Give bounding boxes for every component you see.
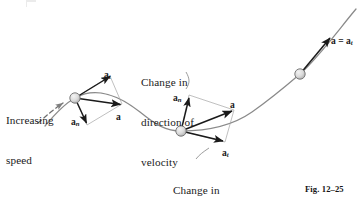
annotation-line: direction of bbox=[141, 116, 194, 129]
annotation-change-in-magnitude: Change in magnitude of velocity bbox=[173, 158, 234, 205]
label-a-left: a bbox=[116, 112, 121, 124]
annotation-line: Change in bbox=[141, 76, 194, 89]
figure-caption: Fig. 12–25 bbox=[305, 184, 344, 194]
label-symbol: a bbox=[116, 112, 121, 122]
label-an-left: an bbox=[71, 117, 80, 129]
label-subscript: t bbox=[109, 73, 111, 80]
label-symbol: a = a bbox=[331, 36, 351, 46]
label-subscript: n bbox=[178, 96, 182, 103]
label-subscript: t bbox=[227, 151, 229, 158]
label-an-middle: an bbox=[173, 93, 182, 105]
annotation-line: Increasing bbox=[6, 114, 54, 127]
vector-a-equals-at bbox=[300, 38, 330, 74]
trajectory-path bbox=[45, 9, 356, 131]
label-at-left: at bbox=[104, 70, 111, 82]
annotation-line: Change in bbox=[173, 184, 234, 197]
vector-group-left bbox=[75, 76, 122, 125]
particle-left bbox=[70, 93, 80, 103]
label-subscript: n bbox=[76, 120, 80, 127]
annotation-increasing-speed: Increasing speed bbox=[6, 88, 54, 194]
label-a-equals-at: a = at bbox=[331, 36, 353, 48]
label-symbol: a bbox=[230, 100, 235, 110]
label-subscript: t bbox=[351, 39, 353, 46]
particle-right bbox=[295, 69, 305, 79]
vector-group-right bbox=[300, 38, 330, 74]
vector-a-left bbox=[75, 98, 121, 105]
annotation-line: speed bbox=[6, 154, 54, 167]
figure-container: Increasing speed Change in direction of … bbox=[0, 0, 362, 205]
label-at-middle: at bbox=[222, 148, 229, 160]
label-a-middle: a bbox=[230, 100, 235, 112]
